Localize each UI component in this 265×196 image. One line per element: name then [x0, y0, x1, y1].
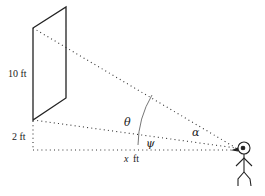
sight-line-top	[33, 28, 236, 148]
theta-label: θ	[124, 116, 131, 129]
figure-eye	[241, 146, 245, 150]
billboard	[33, 7, 66, 120]
sight-line-bottom	[33, 120, 236, 148]
stick-figure	[233, 142, 252, 186]
alpha-label: α	[192, 126, 200, 139]
distance-unit: ft	[133, 153, 139, 164]
board-height-label: 10 ft	[8, 68, 27, 79]
figure-nose	[233, 148, 238, 151]
diagram-canvas: 10 ft 2 ft θ ψ α x ft	[0, 0, 265, 196]
offset-label: 2 ft	[12, 131, 26, 142]
psi-label: ψ	[146, 137, 155, 150]
distance-var: x	[123, 153, 129, 164]
distance-label: x ft	[123, 153, 139, 164]
